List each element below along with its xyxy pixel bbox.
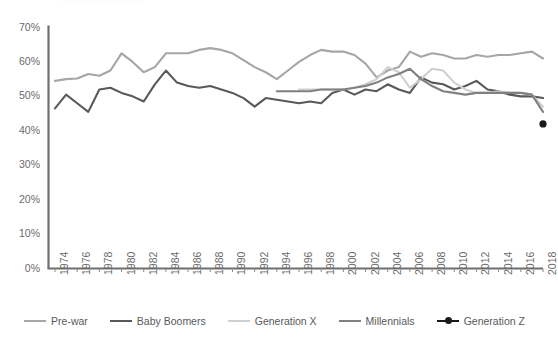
y-axis-tick-label: 10% [6,228,40,239]
x-axis-tick-label: 1980 [126,251,137,274]
series-marker-generation-z [539,120,546,127]
legend-swatch-icon [228,316,250,326]
y-axis-tick-label: 20% [6,194,40,205]
x-axis-tick-label: 1992 [259,251,270,274]
x-axis-tick-label: 1976 [81,251,92,274]
x-axis-tick-label: 1994 [281,251,292,274]
legend-label: Pre-war [51,315,88,327]
legend-label: Generation X [255,315,317,327]
chart-series-layer [55,48,547,127]
series-line-generation-x [299,67,543,107]
x-axis-tick-label: 2014 [503,251,514,274]
x-axis-tick-label: 1984 [170,251,181,274]
x-axis-tick-label: 2008 [436,251,447,274]
y-axis-tick-label: 0% [6,263,40,274]
x-axis-tick-label: 2002 [370,251,381,274]
legend-label: Generation Z [464,315,525,327]
x-axis-tick-label: 2004 [392,251,403,274]
x-axis-tick-label: 1998 [325,251,336,274]
y-axis-tick-label: 60% [6,56,40,67]
legend-swatch-icon [437,316,459,326]
series-line-millennials [277,69,543,112]
legend-swatch-icon [339,316,361,326]
y-axis-tick-label: 40% [6,125,40,136]
x-axis-tick-label: 1978 [103,251,114,274]
y-axis-tick-label: 50% [6,90,40,101]
legend-item-millennials[interactable]: Millennials [339,315,415,327]
legend-item-generation-z[interactable]: Generation Z [437,315,525,327]
x-axis-tick-label: 1982 [148,251,159,274]
legend-item-generation-x[interactable]: Generation X [228,315,317,327]
x-axis-tick-label: 1990 [236,251,247,274]
x-axis-tick-label: 2016 [525,251,536,274]
legend-swatch-icon [110,316,132,326]
x-axis-tick-label: 2000 [347,251,358,274]
legend-label: Baby Boomers [137,315,206,327]
y-axis-tick-label: 70% [6,22,40,33]
legend-label: Millennials [366,315,415,327]
x-axis-tick-label: 2006 [414,251,425,274]
series-line-pre-war [55,48,543,81]
x-axis-tick-label: 1988 [214,251,225,274]
x-axis-tick-label: 2012 [480,251,491,274]
legend-swatch-icon [24,316,46,326]
chart-legend: Pre-warBaby BoomersGeneration XMillennia… [0,310,549,332]
legend-item-baby-boomers[interactable]: Baby Boomers [110,315,206,327]
chart-axes [48,26,544,273]
x-axis-tick-label: 2010 [458,251,469,274]
x-axis-tick-label: 2018 [547,251,558,274]
legend-item-pre-war[interactable]: Pre-war [24,315,88,327]
x-axis-tick-label: 1974 [59,251,70,274]
y-axis-tick-label: 30% [6,159,40,170]
x-axis-tick-label: 1996 [303,251,314,274]
x-axis-tick-label: 1986 [192,251,203,274]
